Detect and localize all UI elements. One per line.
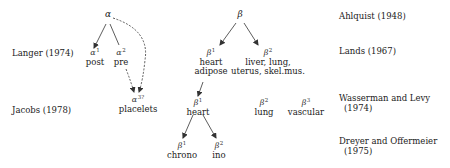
node-alpha2: α2 pre <box>114 46 129 67</box>
node-beta-root: β <box>237 9 242 19</box>
edge-alpha2-alpha3-dashed <box>126 69 134 92</box>
node-beta2-ino: β2 ino <box>212 139 225 160</box>
label-langer: Langer (1974) <box>12 48 74 58</box>
node-beta2-lung: β2 lung <box>254 96 273 117</box>
label-lands: Lands (1967) <box>339 46 396 56</box>
label-wasserman-levy: Wasserman and Levy (1974) <box>339 93 430 113</box>
label-ahlquist: Ahlquist (1948) <box>339 11 406 21</box>
node-beta1-heart: β1 heart <box>186 96 209 117</box>
node-beta1: β1 heart adipose <box>194 46 227 77</box>
node-alpha1: α1 post <box>86 46 104 67</box>
node-beta1-chrono: β1 chrono <box>167 139 197 160</box>
edge-alpha-alpha1 <box>94 24 106 48</box>
edge-beta-beta1 <box>220 23 236 45</box>
edge-beta1b-chrono <box>183 115 193 138</box>
edge-beta-beta2 <box>244 23 258 45</box>
edge-beta1b-ino <box>203 115 216 138</box>
node-alpha3: α3? placelets <box>119 93 158 114</box>
edge-alpha-alpha2 <box>110 24 119 45</box>
edge-beta1-beta1b <box>198 82 203 96</box>
node-beta3-vascular: β3 vascular <box>288 96 324 117</box>
node-alpha-root: α <box>105 9 111 19</box>
label-jacobs: Jacobs (1978) <box>12 105 71 115</box>
node-beta2: β2 liver, lung, uterus, skel.mus. <box>231 46 305 77</box>
label-dreyer-offermeier: Dreyer and Offermeier (1975) <box>339 136 437 156</box>
